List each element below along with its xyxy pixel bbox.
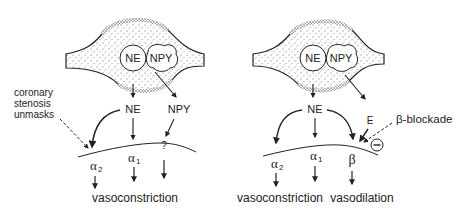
- beta-receptor-label: β: [348, 152, 355, 167]
- ne-vesicle-right: NE: [300, 45, 326, 71]
- svg-text:α: α: [128, 150, 135, 165]
- alpha2-receptor-right: α 2: [271, 156, 284, 172]
- ne-to-alpha2-arrow: [92, 110, 120, 147]
- vasoconstriction-label: vasoconstriction: [237, 191, 323, 205]
- released-npy-label: NPY: [168, 103, 191, 115]
- diagram-canvas: NE NPY NE NPY coronary stenosis unmasks …: [0, 0, 469, 209]
- epinephrine-to-beta-arrow: [360, 129, 368, 141]
- svg-text:1: 1: [318, 155, 323, 164]
- alpha2-receptor-left: α 2: [90, 158, 103, 174]
- svg-text:coronary: coronary: [14, 87, 53, 98]
- unknown-receptor-label: ?: [161, 140, 167, 151]
- inhibition-icon: [371, 139, 383, 151]
- svg-text:1: 1: [136, 157, 141, 166]
- vasodilation-label: vasodilation: [330, 191, 393, 205]
- alpha1-receptor-left: α 1: [128, 150, 141, 166]
- npy-vesicle-label: NPY: [150, 52, 173, 64]
- released-ne-label: NE: [307, 103, 322, 115]
- npy-to-unknown-arrow: [166, 119, 174, 136]
- left-panel: NE NPY NE NPY coronary stenosis unmasks …: [14, 20, 204, 205]
- svg-text:α: α: [271, 156, 278, 171]
- beta-blockade-label: β-blockade: [396, 113, 452, 125]
- svg-text:2: 2: [279, 163, 284, 172]
- npy-vesicle-label: NPY: [330, 52, 353, 64]
- ne-to-beta-arrow: [327, 110, 353, 139]
- npy-vesicle-left: NPY: [146, 44, 177, 71]
- ne-vesicle-label: NE: [305, 52, 320, 64]
- epinephrine-label: E: [367, 115, 374, 126]
- svg-text:2: 2: [98, 165, 103, 174]
- alpha1-receptor-right: α 1: [310, 148, 323, 164]
- ne-vesicle-left: NE: [120, 45, 146, 71]
- npy-release-arrow: [345, 75, 365, 99]
- svg-text:α: α: [90, 158, 97, 173]
- svg-text:unmasks: unmasks: [14, 109, 54, 120]
- ne-to-alpha2-arrow: [276, 110, 302, 143]
- right-panel: NE NPY NE E β-blockade α 2 α 1: [237, 21, 453, 205]
- npy-vesicle-right: NPY: [326, 44, 357, 71]
- coronary-stenosis-annotation: coronary stenosis unmasks: [14, 87, 54, 120]
- svg-text:stenosis: stenosis: [14, 98, 51, 109]
- released-ne-label: NE: [125, 103, 140, 115]
- ne-vesicle-label: NE: [125, 52, 140, 64]
- unmask-dashed-arrow: [60, 119, 88, 148]
- cell-membrane-left: [78, 143, 196, 157]
- vasoconstriction-label: vasoconstriction: [92, 191, 178, 205]
- svg-text:α: α: [310, 148, 317, 163]
